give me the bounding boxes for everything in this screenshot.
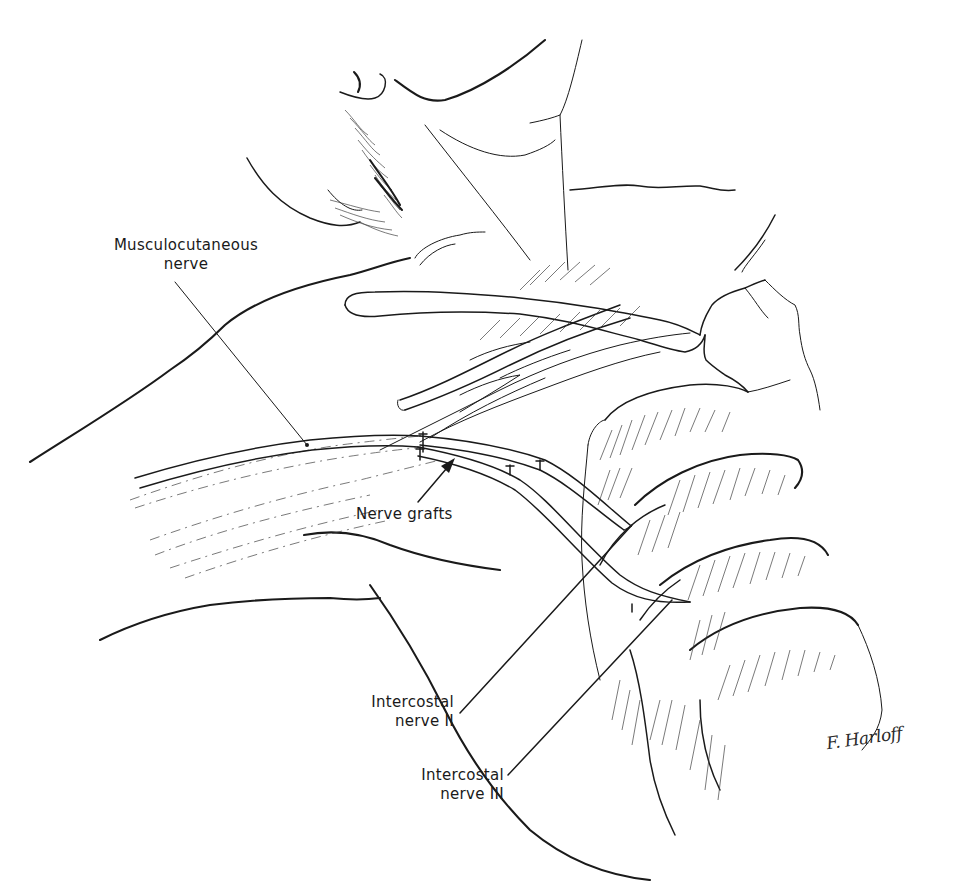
nerve-graft-lower (418, 447, 690, 602)
nerve-grafts-arrow (418, 458, 455, 502)
label-musculocutaneous-line1: Musculocutaneous (86, 236, 286, 255)
anatomical-illustration: Musculocutaneous nerve Nerve grafts Inte… (0, 0, 954, 881)
label-intercostal-iii-line2: nerve III (350, 785, 504, 804)
label-musculocutaneous-nerve: Musculocutaneous nerve (86, 236, 286, 274)
illustration-drawing (0, 0, 954, 881)
leader-intercostal-iii (508, 600, 672, 775)
label-nerve-grafts-text: Nerve grafts (356, 505, 453, 523)
neck-shading (330, 110, 402, 236)
label-intercostal-iii-line1: Intercostal (350, 766, 504, 785)
leader-intercostal-ii (460, 525, 632, 713)
label-intercostal-nerve-ii: Intercostal nerve II (300, 693, 454, 731)
brachial-plexus-bundle (380, 262, 690, 450)
label-intercostal-ii-line1: Intercostal (300, 693, 454, 712)
label-musculocutaneous-line2: nerve (86, 255, 286, 274)
label-intercostal-nerve-iii: Intercostal nerve III (350, 766, 504, 804)
label-intercostal-ii-line2: nerve II (300, 712, 454, 731)
musculocutaneous-nerve (135, 435, 420, 488)
label-nerve-grafts: Nerve grafts (356, 505, 453, 524)
leader-musculocutaneous (175, 282, 307, 445)
ribcage (582, 384, 882, 835)
head-contour (247, 40, 775, 272)
rib-hatching (598, 408, 835, 800)
